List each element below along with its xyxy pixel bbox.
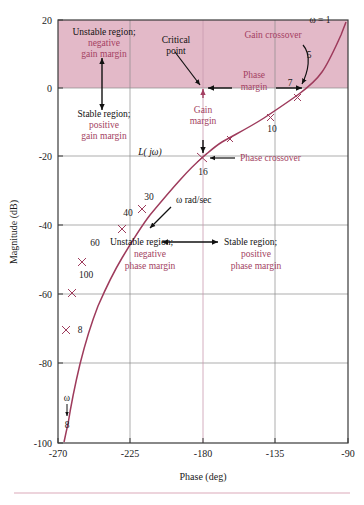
omega-infinity-top-label: ω	[64, 393, 70, 403]
y-tick-label: -60	[39, 289, 52, 300]
critical-point-label-line1: Critical	[162, 35, 191, 45]
stable-gain-region-line2: positive	[89, 120, 119, 130]
omega-marker-ticks	[62, 94, 301, 334]
x-tick-label: -270	[49, 448, 67, 459]
gain-margin-label-line1: Gain	[194, 105, 213, 115]
phase-margin-label-line2: margin	[241, 82, 268, 92]
unstable-phase-region-line1: Unstable region;	[110, 237, 173, 247]
omega-marker-label-100: 100	[79, 270, 94, 280]
omega-marker-label-7: 7	[288, 78, 293, 88]
transfer-function-label: L( jω)	[137, 147, 161, 158]
nichols-chart-svg: 20 0 -20 -40 -60 -80 -100 -270 -225 -180…	[0, 0, 364, 505]
x-axis-title: Phase (deg)	[180, 471, 227, 483]
stable-gain-region-line1: Stable region;	[77, 109, 130, 119]
unstable-gain-region-line1: Unstable region;	[72, 27, 135, 37]
y-axis-title: Magnitude (dB)	[8, 200, 20, 264]
x-tick-label: -225	[121, 448, 139, 459]
omega-marker-label-30: 30	[144, 192, 154, 202]
y-tick-label: -20	[39, 151, 52, 162]
unstable-gain-region-line2: negative	[88, 38, 120, 48]
y-tick-label: -80	[39, 358, 52, 369]
nichols-chart-figure: 20 0 -20 -40 -60 -80 -100 -270 -225 -180…	[0, 0, 364, 505]
unstable-gain-region-line3: gain margin	[81, 49, 127, 59]
omega-marker-label-40: 40	[123, 208, 133, 218]
phase-crossover-label: Phase crossover	[240, 153, 302, 163]
x-tick-marks	[58, 438, 348, 443]
stable-gain-region-line3: gain margin	[81, 131, 127, 141]
critical-point-label-line2: point	[166, 46, 186, 56]
unstable-phase-region-line2: negative	[134, 249, 166, 259]
x-tick-label: -135	[266, 448, 284, 459]
omega-infinity-bottom-label: 8	[65, 420, 70, 430]
y-tick-label: 0	[47, 83, 52, 94]
stable-phase-region-line2: positive	[241, 249, 271, 259]
omega-marker-label-300: 8	[78, 325, 83, 335]
omega-marker-label-1: ω = 1	[309, 15, 330, 25]
gain-crossover-label: Gain crossover	[244, 30, 302, 40]
omega-marker-label-16: 16	[198, 167, 208, 177]
x-tick-label: -180	[194, 448, 212, 459]
unstable-phase-region-line3: phase margin	[125, 261, 176, 271]
y-tick-label: -40	[39, 220, 52, 231]
stable-phase-region-line3: phase margin	[231, 261, 282, 271]
omega-units-label: ω rad/sec	[176, 195, 212, 205]
stable-phase-region-line1: Stable region;	[224, 237, 277, 247]
omega-marker-label-60: 60	[90, 238, 100, 248]
gain-margin-label-line2: margin	[190, 116, 217, 126]
omega-marker-label-5: 5	[307, 50, 312, 60]
phase-margin-label-line1: Phase	[243, 70, 265, 80]
omega-marker-label-10: 10	[267, 124, 277, 134]
y-tick-label: 20	[42, 15, 52, 26]
x-tick-label: -90	[341, 448, 354, 459]
